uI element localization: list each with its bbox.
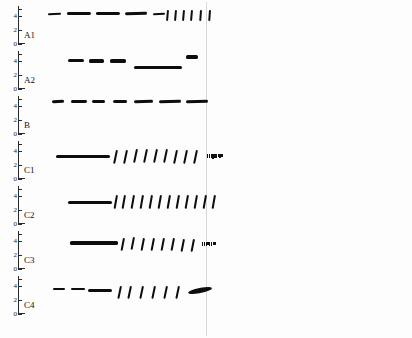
note-flat [113, 100, 127, 104]
note-flat [125, 12, 147, 15]
note-flat [48, 12, 61, 14]
y-tick [18, 314, 22, 315]
y-tick-label: 2 [14, 72, 18, 79]
y-tick [18, 151, 22, 152]
note-slash [182, 10, 185, 21]
y-tick [18, 241, 22, 242]
y-tick-label: 4 [14, 238, 18, 245]
note-slash [176, 195, 181, 209]
note-slash [117, 285, 122, 298]
y-tick-label: 0 [14, 221, 18, 228]
y-tick [18, 300, 22, 301]
y-tick [18, 286, 22, 287]
note-flat [153, 12, 165, 15]
y-tick [18, 75, 22, 76]
note-flat [53, 288, 65, 290]
note-slash [151, 238, 156, 251]
y-tick-label: 4 [14, 148, 18, 155]
y-tick-label: 4 [14, 193, 18, 200]
note-slash [185, 195, 190, 209]
y-axis-line [18, 51, 19, 89]
y-tick-label: 2 [14, 162, 18, 169]
y-tick [18, 54, 22, 55]
y-tick [18, 16, 22, 17]
note-slash [191, 239, 196, 252]
note-slash [131, 195, 136, 209]
y-tick [18, 255, 22, 256]
y-tick [18, 61, 22, 62]
note-flat [56, 155, 110, 158]
note-flat [67, 12, 91, 15]
y-tick-label: 2 [14, 207, 18, 214]
note-slash [149, 195, 154, 209]
panel-c3: 024C3 [18, 231, 206, 269]
y-tick [18, 134, 22, 135]
y-tick-label: 2 [14, 27, 18, 34]
note-flat [159, 100, 181, 104]
y-tick-label: 0 [14, 86, 18, 93]
y-tick-label: 0 [14, 311, 18, 318]
y-tick [18, 269, 22, 270]
y-tick [18, 99, 22, 100]
y-axis-line [18, 231, 19, 269]
note-slash [167, 195, 172, 209]
y-tick-label: 0 [14, 41, 18, 48]
plot-area-b [26, 96, 206, 134]
y-tick-label: 2 [14, 252, 18, 259]
note-flat [92, 100, 105, 104]
plot-area-c2 [26, 186, 206, 224]
plot-area-a2 [26, 51, 206, 89]
y-axis-line [18, 186, 19, 224]
y-tick-label: 0 [14, 131, 18, 138]
note-slash [173, 149, 178, 163]
note-slash [166, 10, 169, 21]
note-slash [127, 285, 132, 298]
y-tick [18, 179, 22, 180]
note-slash [122, 195, 127, 209]
note-flat [134, 66, 182, 69]
y-tick [18, 210, 22, 211]
y-tick [18, 106, 22, 107]
note-slash [140, 195, 145, 209]
y-tick [18, 234, 22, 235]
note-slash [133, 149, 138, 163]
y-axis-line [18, 276, 19, 314]
note-flat [186, 55, 198, 58]
note-flat [70, 241, 118, 244]
note-slash [163, 149, 168, 163]
y-tick-label: 4 [14, 283, 18, 290]
note-slash [194, 195, 199, 209]
note-flat [68, 59, 84, 62]
panel-c1: 024C1 [18, 141, 206, 179]
y-axis-line [18, 141, 19, 179]
note-slash [199, 10, 202, 21]
note-flat [71, 100, 87, 104]
note-flat [68, 201, 112, 204]
y-tick-label: 2 [14, 117, 18, 124]
note-slash [175, 286, 180, 299]
y-tick [18, 279, 22, 280]
y-tick-label: 2 [14, 297, 18, 304]
note-slash [114, 195, 119, 209]
note-slash [113, 149, 118, 163]
y-tick [18, 30, 22, 31]
note-slash [141, 237, 146, 250]
y-axis-foot [18, 268, 25, 269]
note-slash [161, 238, 166, 251]
panel-c2: 024C2 [18, 186, 206, 224]
note-slash [193, 150, 198, 164]
y-axis-foot [18, 88, 25, 89]
note-flat [52, 100, 64, 104]
note-slash [151, 285, 156, 298]
y-tick [18, 189, 22, 190]
y-axis-foot [18, 133, 25, 134]
y-tick-label: 4 [14, 58, 18, 65]
y-tick-label: 4 [14, 103, 18, 110]
note-slash [171, 238, 176, 251]
note-flat [134, 100, 153, 104]
note-slash [163, 286, 168, 299]
y-tick-label: 0 [14, 266, 18, 273]
y-tick [18, 44, 22, 45]
y-tick-label: 0 [14, 176, 18, 183]
note-slash [123, 149, 128, 163]
